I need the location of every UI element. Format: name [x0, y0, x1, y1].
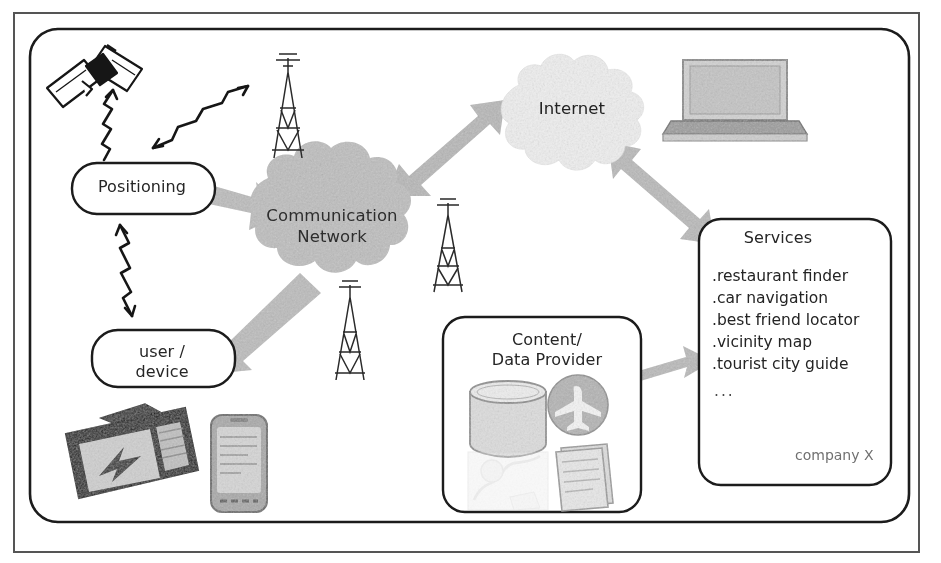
map-photo-icon — [468, 452, 548, 510]
service-item[interactable]: .best friend locator — [712, 309, 902, 331]
internet-label: Internet — [512, 99, 632, 120]
internet-to-services-arrow — [608, 142, 715, 244]
service-item[interactable]: .car navigation — [712, 287, 902, 309]
network-to-internet-arrow — [386, 100, 505, 196]
cell-tower-icon-right — [433, 199, 463, 292]
laptop-icon — [663, 60, 807, 141]
positioning-to-user-link — [116, 225, 135, 316]
communication-network-label: Communication Network — [252, 206, 412, 247]
diagram-canvas: Positioning user / device Communication … — [0, 0, 941, 563]
company-owner-label: company X — [795, 447, 874, 463]
service-item[interactable]: .tourist city guide — [712, 353, 902, 375]
cell-tower-icon-top — [272, 54, 304, 158]
service-item[interactable]: .vicinity map — [712, 331, 902, 353]
content-provider-label: Content/ Data Provider — [452, 330, 642, 370]
cell-tower-icon-bottom — [335, 281, 365, 380]
services-ellipsis: ... — [714, 382, 735, 400]
navigation-device-icon — [66, 404, 198, 498]
services-list: .restaurant finder.car navigation.best f… — [712, 265, 902, 375]
service-item[interactable]: .restaurant finder — [712, 265, 902, 287]
positioning-to-tower-link — [153, 86, 248, 148]
smartphone-icon — [211, 415, 267, 512]
airplane-badge-icon — [548, 375, 608, 435]
documents-stack-icon — [556, 444, 613, 511]
services-title: Services — [718, 228, 838, 248]
positioning-label: Positioning — [72, 177, 212, 197]
satellite-icon — [47, 45, 142, 107]
user-device-label: user / device — [92, 342, 232, 382]
database-icon — [470, 381, 546, 457]
satellite-to-positioning-link — [102, 90, 117, 160]
